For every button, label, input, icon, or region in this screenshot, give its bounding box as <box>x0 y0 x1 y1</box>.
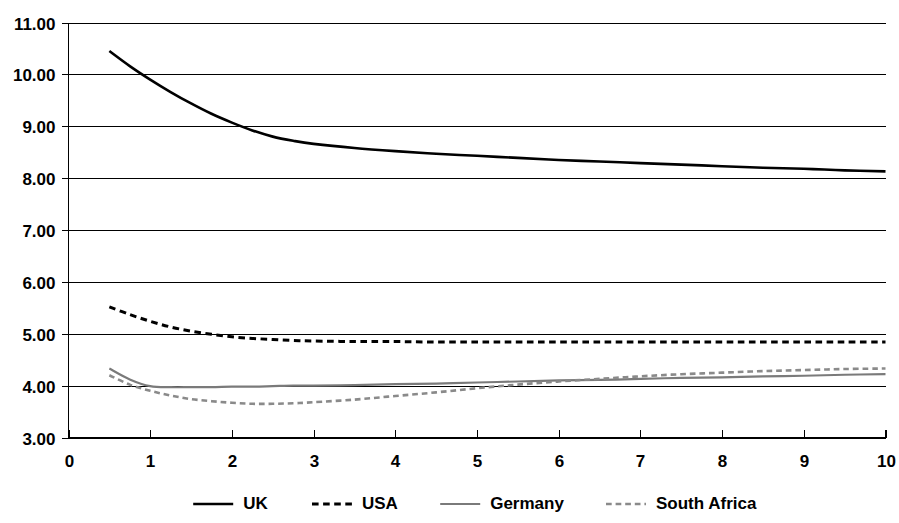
x-tick-label: 6 <box>555 452 564 471</box>
legend-label-germany: Germany <box>490 494 564 513</box>
y-tick-label: 8.00 <box>22 170 55 189</box>
y-tick-label: 6.00 <box>22 274 55 293</box>
y-tick-label: 5.00 <box>22 326 55 345</box>
y-tick-label: 10.00 <box>13 66 56 85</box>
x-tick-label: 4 <box>391 452 401 471</box>
y-axis-tick-labels: 3.004.005.006.007.008.009.0010.0011.00 <box>13 15 56 449</box>
y-tick-label: 11.00 <box>14 15 56 34</box>
y-tick-label: 3.00 <box>22 430 55 449</box>
series-line-uk <box>109 51 885 171</box>
x-tick-label: 9 <box>800 452 809 471</box>
line-chart: 3.004.005.006.007.008.009.0010.0011.00 0… <box>0 0 899 523</box>
x-tick-label: 0 <box>65 452 74 471</box>
x-tick-label: 8 <box>718 452 727 471</box>
data-series <box>109 51 885 404</box>
y-tick-label: 4.00 <box>22 378 55 397</box>
y-tick-label: 7.00 <box>22 222 55 241</box>
x-tick-label: 3 <box>310 452 319 471</box>
x-tick-label: 2 <box>228 452 237 471</box>
chart-canvas: 3.004.005.006.007.008.009.0010.0011.00 0… <box>0 0 899 523</box>
legend-label-uk: UK <box>243 494 268 513</box>
x-tick-label: 1 <box>146 452 155 471</box>
x-tick-label: 10 <box>877 452 896 471</box>
series-line-usa <box>109 307 885 342</box>
x-axis-tick-labels: 012345678910 <box>65 452 896 471</box>
x-tick-label: 7 <box>636 452 645 471</box>
legend-label-usa: USA <box>362 494 398 513</box>
legend-label-south-africa: South Africa <box>656 494 757 513</box>
y-tick-label: 9.00 <box>22 118 55 137</box>
chart-legend: UKUSAGermanySouth Africa <box>193 494 757 513</box>
x-tick-label: 5 <box>473 452 482 471</box>
